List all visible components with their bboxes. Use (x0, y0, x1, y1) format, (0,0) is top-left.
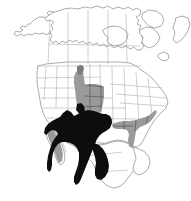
greenland-west-edge (173, 16, 190, 43)
yucatan-peninsula-outline (133, 147, 150, 175)
distribution-map-figure (0, 0, 191, 201)
baffin-island-outline (142, 10, 164, 28)
north-america-map (0, 0, 191, 201)
canada-mainland-outline (45, 6, 144, 50)
newfoundland-outline (158, 52, 169, 61)
